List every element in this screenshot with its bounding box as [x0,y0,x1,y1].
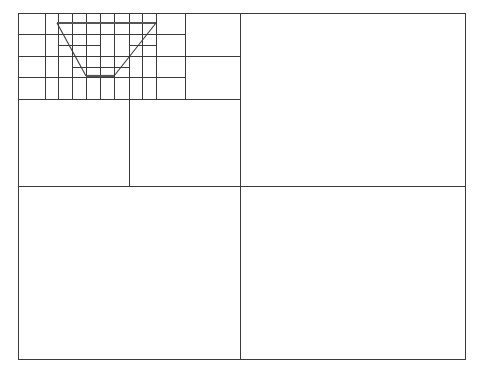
quadtree-diagram [0,0,481,376]
